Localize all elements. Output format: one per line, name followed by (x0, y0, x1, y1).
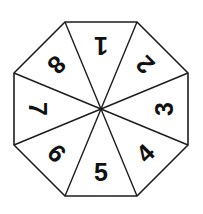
octagon-spinner-diagram: 12345678 (0, 0, 203, 214)
sector-number-1: 1 (94, 32, 108, 60)
octagon-figure: 12345678 (0, 0, 203, 214)
sector-number-7: 7 (24, 102, 52, 116)
sector-number-3: 3 (150, 102, 178, 116)
sector-number-5: 5 (94, 158, 108, 186)
